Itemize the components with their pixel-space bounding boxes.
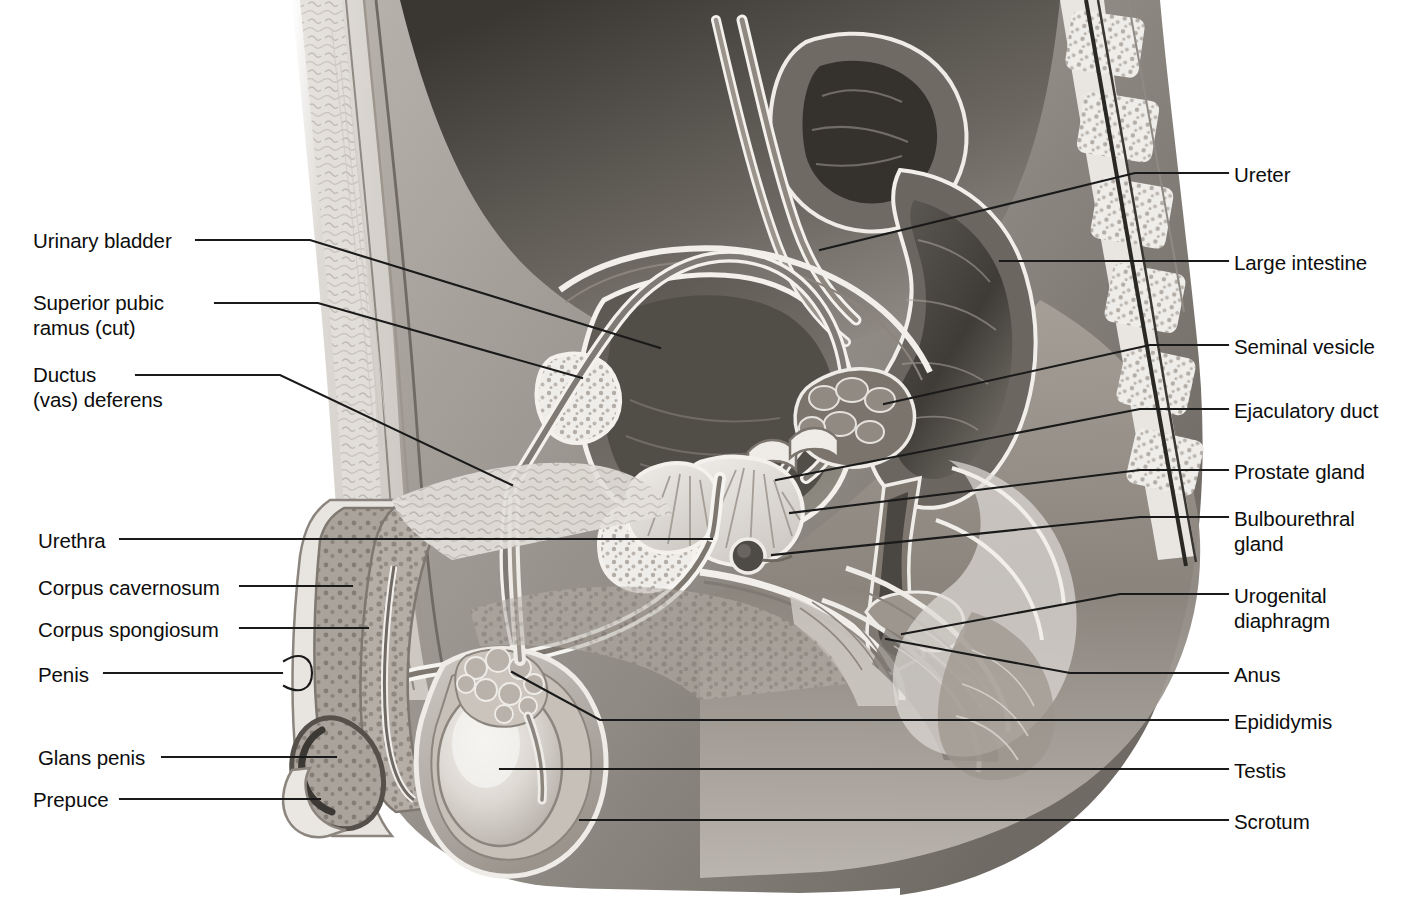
label-testis: Testis [1234, 758, 1286, 783]
label-ductus-vas-deferens: Ductus (vas) deferens [33, 362, 163, 412]
label-glans-penis: Glans penis [38, 745, 145, 770]
label-urethra: Urethra [38, 528, 106, 553]
label-urinary-bladder: Urinary bladder [33, 228, 172, 253]
label-prepuce: Prepuce [33, 787, 109, 812]
anatomy-figure: Urinary bladderSuperior pubic ramus (cut… [0, 0, 1406, 907]
label-ureter: Ureter [1234, 162, 1290, 187]
label-urogenital-diaphragm: Urogenital diaphragm [1234, 583, 1330, 633]
label-scrotum: Scrotum [1234, 809, 1310, 834]
label-large-intestine: Large intestine [1234, 250, 1367, 275]
label-superior-pubic-ramus: Superior pubic ramus (cut) [33, 290, 164, 340]
label-anus: Anus [1234, 662, 1280, 687]
label-corpus-spongiosum: Corpus spongiosum [38, 617, 219, 642]
male-reproductive-system-illustration [0, 0, 1406, 907]
seminal-vesicle [795, 369, 914, 467]
label-corpus-cavernosum: Corpus cavernosum [38, 575, 220, 600]
illustration-body [283, 0, 1205, 907]
label-epididymis: Epididymis [1234, 709, 1332, 734]
label-prostate-gland: Prostate gland [1234, 459, 1365, 484]
label-ejaculatory-duct: Ejaculatory duct [1234, 398, 1378, 423]
label-penis: Penis [38, 662, 89, 687]
label-bulbourethral-gland: Bulbourethral gland [1234, 506, 1355, 556]
label-seminal-vesicle: Seminal vesicle [1234, 334, 1375, 359]
